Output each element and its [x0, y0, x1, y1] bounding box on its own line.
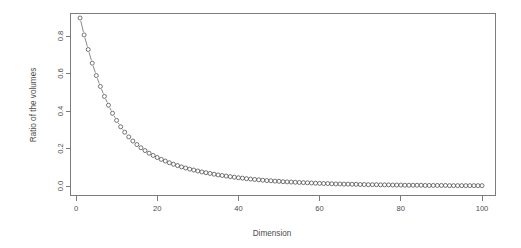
plot-background	[0, 0, 521, 248]
y-axis-title: Ratio of the volumes	[29, 68, 38, 143]
y-tick-label: 0.4	[56, 106, 65, 117]
y-tick-label: 0.6	[56, 68, 65, 79]
x-tick-label: 60	[315, 204, 323, 213]
y-tick-label: 0.0	[56, 181, 65, 192]
y-tick-label: 0.2	[56, 143, 65, 154]
x-tick-label: 40	[234, 204, 242, 213]
x-axis-title: Dimension	[253, 229, 292, 238]
x-tick-label: 100	[476, 204, 489, 213]
chart-canvas: 020406080100 0.00.20.40.60.8 Dimension R…	[0, 0, 521, 248]
scatter-plot: 020406080100 0.00.20.40.60.8 Dimension R…	[0, 0, 521, 248]
y-tick-label: 0.8	[56, 31, 65, 42]
x-tick-label: 20	[153, 204, 161, 213]
x-tick-label: 0	[74, 204, 78, 213]
x-tick-label: 80	[397, 204, 405, 213]
